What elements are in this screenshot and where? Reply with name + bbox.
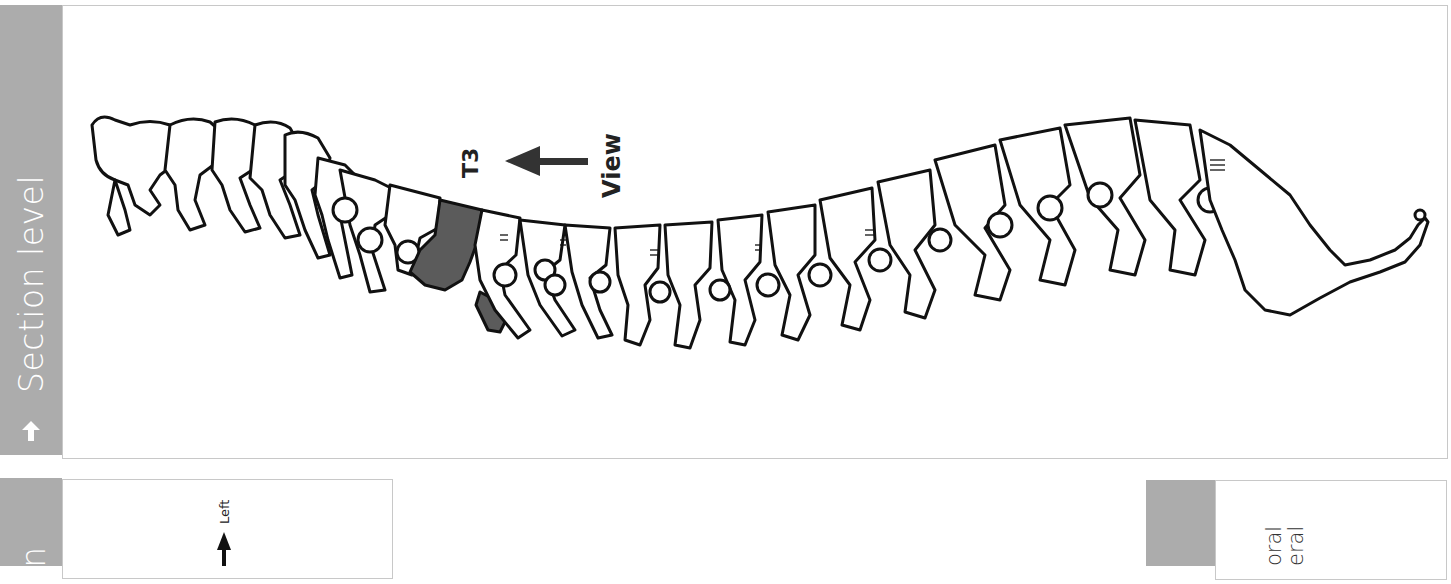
partial-label-oral: oral	[1262, 526, 1286, 566]
bottom-right-tab	[1146, 480, 1215, 566]
left-direction-label: Left	[217, 500, 232, 524]
bottom-right-frame	[1215, 480, 1447, 580]
partial-label-eral: eral	[1284, 526, 1308, 566]
